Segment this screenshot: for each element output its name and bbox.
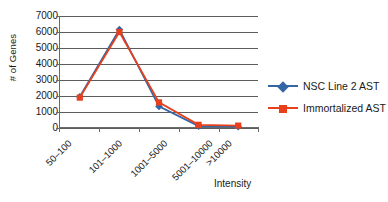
y-axis-tick-labels: 7000 6000 5000 4000 3000 2000 1000 0	[20, 0, 58, 202]
x-axis-title: Intensity	[214, 178, 251, 189]
series-line-1	[80, 32, 238, 126]
gridline-0	[60, 128, 258, 129]
y-tick-label: 6000	[20, 27, 58, 37]
y-tick-label: 3000	[20, 75, 58, 85]
square-marker-icon	[196, 122, 202, 128]
y-axis-title: # of Genes	[7, 22, 18, 94]
y-tick-label: 2000	[20, 91, 58, 101]
data-series-layer	[60, 16, 258, 128]
legend-label: NSC Line 2 AST	[298, 80, 379, 92]
y-tick-label: 7000	[20, 11, 58, 21]
line-chart: # of Genes 7000 6000 5000 4000 3000 2000…	[0, 0, 388, 202]
x-tick-label: 101–1000	[86, 138, 124, 176]
diamond-marker-icon	[277, 81, 288, 92]
square-marker-icon	[156, 99, 162, 105]
y-tick-label: 1000	[20, 107, 58, 117]
legend-swatch-red	[268, 102, 298, 114]
chart-legend: NSC Line 2 AST Immortalized AST	[268, 78, 386, 122]
square-marker-icon	[77, 95, 83, 101]
square-marker-icon	[116, 29, 122, 35]
square-marker-icon	[279, 105, 287, 113]
legend-item-nsc-line-2-ast[interactable]: NSC Line 2 AST	[268, 78, 386, 93]
series-line-0	[80, 30, 238, 127]
y-tick-label: 4000	[20, 59, 58, 69]
legend-swatch-blue	[268, 80, 298, 92]
plot-area	[60, 16, 258, 128]
x-tick-label: 1001–5000	[128, 138, 169, 179]
y-tick-label: 5000	[20, 43, 58, 53]
legend-label: Immortalized AST	[298, 102, 386, 114]
square-marker-icon	[235, 123, 241, 129]
y-tick-label: 0	[20, 123, 58, 133]
legend-item-immortalized-ast[interactable]: Immortalized AST	[268, 100, 386, 115]
